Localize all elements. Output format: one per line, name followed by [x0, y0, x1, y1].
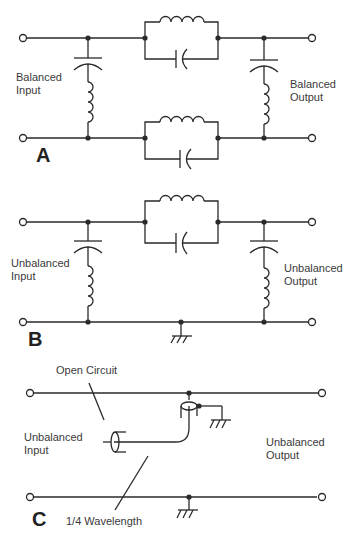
parallel-lc-tank-icon: [145, 17, 218, 70]
open-circuit-label: Open Circuit: [56, 364, 117, 377]
label-line: Output: [290, 91, 336, 104]
label-line: Input: [11, 270, 70, 283]
panel-b-output-label: Unbalanced Output: [284, 262, 343, 288]
terminal-icon: [20, 135, 27, 142]
ground-icon: [177, 497, 198, 518]
series-lc-shunt-icon: [250, 222, 278, 322]
panel-a-input-label: Balanced Input: [16, 71, 62, 97]
terminal-icon: [20, 319, 27, 326]
parallel-lc-tank-icon: [145, 196, 218, 255]
panel-c-letter: C: [32, 508, 46, 531]
label-line: Unbalanced: [266, 436, 325, 449]
terminal-icon: [27, 494, 34, 501]
terminal-icon: [319, 494, 326, 501]
terminal-icon: [309, 135, 316, 142]
ground-icon: [171, 322, 192, 343]
terminal-icon: [309, 35, 316, 42]
quarter-wavelength-label: 1/4 Wavelength: [66, 515, 142, 528]
label-line: Balanced: [16, 71, 62, 84]
terminal-icon: [319, 390, 326, 397]
panel-a-output-label: Balanced Output: [290, 78, 336, 104]
wavelength-leader: [115, 456, 148, 510]
series-lc-shunt-icon: [250, 38, 278, 138]
terminal-icon: [309, 219, 316, 226]
open-circuit-leader: [89, 383, 104, 420]
terminal-icon: [309, 319, 316, 326]
label-line: Unbalanced: [284, 262, 343, 275]
panel-a-circuit: [20, 17, 316, 170]
label-line: Unbalanced: [24, 431, 83, 444]
label-line: Input: [24, 444, 83, 457]
coax-stub-icon: [103, 393, 231, 452]
panel-a-letter: A: [36, 144, 50, 167]
label-line: Unbalanced: [11, 257, 70, 270]
terminal-icon: [20, 35, 27, 42]
panel-c-output-label: Unbalanced Output: [266, 436, 325, 462]
label-line: Output: [284, 275, 343, 288]
panel-c-input-label: Unbalanced Input: [24, 431, 83, 457]
panel-b-letter: B: [28, 328, 42, 351]
series-lc-shunt-icon: [74, 222, 102, 322]
series-lc-shunt-icon: [74, 38, 102, 138]
label-line: Input: [16, 84, 62, 97]
label-line: Output: [266, 449, 325, 462]
label-line: Balanced: [290, 78, 336, 91]
terminal-icon: [20, 219, 27, 226]
panel-b-input-label: Unbalanced Input: [11, 257, 70, 283]
parallel-lc-tank-icon: [145, 117, 218, 170]
terminal-icon: [27, 390, 34, 397]
